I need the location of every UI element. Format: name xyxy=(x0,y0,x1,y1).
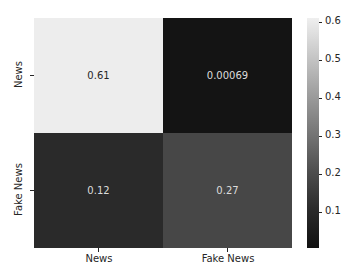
colorbar-label: 0.2 xyxy=(325,167,341,178)
cell-news-fakenews: 0.00069 xyxy=(163,18,292,133)
cell-value: 0.12 xyxy=(87,185,109,196)
colorbar-label: 0.3 xyxy=(325,129,341,140)
y-tickmark xyxy=(30,190,34,191)
colorbar-label: 0.4 xyxy=(325,91,341,102)
cell-fakenews-news: 0.12 xyxy=(34,133,163,248)
colorbar xyxy=(307,18,319,248)
colorbar-tick xyxy=(319,22,322,23)
cell-value: 0.61 xyxy=(87,70,109,81)
cell-news-news: 0.61 xyxy=(34,18,163,133)
cell-value: 0.27 xyxy=(216,185,238,196)
y-tick-label-fake-news: Fake News xyxy=(13,163,24,217)
x-tickmark xyxy=(98,248,99,252)
colorbar-tick xyxy=(319,174,322,175)
colorbar-label: 0.1 xyxy=(325,205,341,216)
cell-fakenews-fakenews: 0.27 xyxy=(163,133,292,248)
colorbar-label: 0.6 xyxy=(325,15,341,26)
colorbar-tick xyxy=(319,136,322,137)
x-tick-label-fake-news: Fake News xyxy=(199,253,257,264)
y-tick-label-news: News xyxy=(13,60,24,90)
cell-value: 0.00069 xyxy=(207,70,248,81)
colorbar-tick xyxy=(319,98,322,99)
colorbar-tick xyxy=(319,212,322,213)
y-tickmark xyxy=(30,75,34,76)
colorbar-label: 0.5 xyxy=(325,53,341,64)
x-tick-label-news: News xyxy=(83,253,115,264)
x-tickmark xyxy=(227,248,228,252)
colorbar-tick xyxy=(319,60,322,61)
